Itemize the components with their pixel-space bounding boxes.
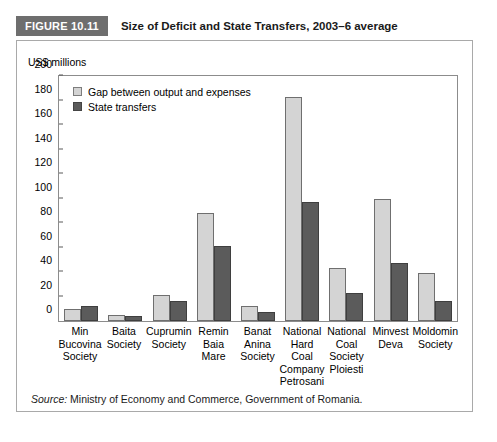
y-axis-tick-label: 160 [34, 107, 59, 119]
x-axis-label-line: Mare [192, 350, 236, 363]
x-axis-label: BanatAninaSociety [236, 325, 280, 388]
x-axis-label-line: Ploiesti [324, 363, 368, 376]
bar-state-transfers [214, 246, 231, 321]
bar-gap [197, 213, 214, 321]
figure-header: FIGURE 10.11 Size of Deficit and State T… [16, 16, 474, 36]
bar-state-transfers [346, 293, 363, 321]
x-axis-label-line: Hard [280, 338, 325, 351]
bar-gap [241, 306, 258, 321]
figure-number-badge: FIGURE 10.11 [16, 16, 108, 36]
bar-group [103, 76, 147, 321]
y-axis-tick-label: 100 [34, 181, 59, 193]
y-axis-tick-label: 180 [34, 83, 59, 95]
y-axis-tick-label: 140 [34, 132, 59, 144]
bar-group [59, 76, 103, 321]
bar-gap [374, 199, 391, 322]
x-axis-label-line: Society [236, 350, 280, 363]
y-axis-tick-label: 40 [40, 254, 59, 266]
bar-gap [418, 273, 435, 321]
bar-state-transfers [170, 301, 187, 321]
bar-state-transfers [391, 263, 408, 321]
x-axis-label: MinvestDeva [368, 325, 412, 388]
bar-group [236, 76, 280, 321]
bar-group [280, 76, 324, 321]
x-axis-label-line: Cuprumin [146, 325, 192, 338]
y-axis-tick-label: 20 [40, 279, 59, 291]
x-axis-label-line: Min [58, 325, 102, 338]
bar-group [147, 76, 191, 321]
bar-group [324, 76, 368, 321]
x-axis-label-line: Baia [192, 338, 236, 351]
x-axis-label-line: Society [324, 350, 368, 363]
x-axis-label-line: Bucovina [58, 338, 102, 351]
x-axis-label-line: National [280, 325, 325, 338]
source-text: Ministry of Economy and Commerce, Govern… [67, 393, 362, 405]
x-axis-label-line: Coal [324, 338, 368, 351]
y-axis-tick-label: 120 [34, 156, 59, 168]
x-axis-label: NationalCoalSocietyPloiesti [324, 325, 368, 388]
bar-gap [329, 268, 346, 321]
bar-gap [64, 309, 81, 321]
bar-state-transfers [258, 312, 275, 321]
bar-gap [108, 315, 125, 321]
x-axis-label-line: Company [280, 363, 325, 376]
x-axis-label-line: National [324, 325, 368, 338]
x-axis-label-line: Society [412, 338, 458, 351]
y-axis-tick-label: 0 [46, 303, 59, 315]
bar-group [192, 76, 236, 321]
bar-gap [153, 295, 170, 321]
x-axis-label-line: Society [146, 338, 192, 351]
x-axis-label: NationalHardCoalCompanyPetrosani [280, 325, 325, 388]
x-axis-label-line: Baita [102, 325, 146, 338]
bar-group [413, 76, 457, 321]
bar-state-transfers [302, 202, 319, 321]
figure-title: Size of Deficit and State Transfers, 200… [108, 16, 398, 36]
bar-state-transfers [435, 301, 452, 321]
x-axis-label-line: Moldomin [412, 325, 458, 338]
bar-gap [285, 97, 302, 321]
x-axis-label-line: Coal [280, 350, 325, 363]
x-axis-labels: MinBucovinaSocietyBaitaSocietyCupruminSo… [58, 325, 458, 388]
y-axis-tick-label: 200 [34, 58, 59, 70]
x-axis-label-line: Society [102, 338, 146, 351]
chart-plot-area: 020406080100120140160180200 Gap between … [58, 75, 458, 322]
x-axis-label-line: Petrosani [280, 375, 325, 388]
x-axis-label-line: Deva [368, 338, 412, 351]
x-axis-label-line: Society [58, 350, 102, 363]
source-note: Source: Ministry of Economy and Commerce… [31, 393, 362, 405]
x-axis-label: ReminBaiaMare [192, 325, 236, 388]
x-axis-label-line: Remin [192, 325, 236, 338]
bar-state-transfers [125, 316, 142, 321]
x-axis-label: MoldominSociety [412, 325, 458, 388]
y-axis-tick-label: 80 [40, 205, 59, 217]
bar-group [369, 76, 413, 321]
y-axis-tick-label: 60 [40, 230, 59, 242]
x-axis-label: MinBucovinaSociety [58, 325, 102, 388]
x-axis-label-line: Banat [236, 325, 280, 338]
x-axis-label-line: Anina [236, 338, 280, 351]
figure-page: FIGURE 10.11 Size of Deficit and State T… [0, 0, 497, 442]
x-axis-label: CupruminSociety [146, 325, 192, 388]
bar-groups-container [59, 76, 457, 321]
source-prefix: Source: [31, 393, 67, 405]
x-axis-label-line: Minvest [368, 325, 412, 338]
bar-state-transfers [81, 306, 98, 321]
x-axis-label: BaitaSociety [102, 325, 146, 388]
